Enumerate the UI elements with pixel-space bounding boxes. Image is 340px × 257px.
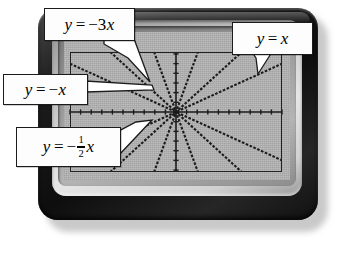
eq-lhs: y [24,81,33,98]
callout-x: y = x [232,22,313,55]
equation-minus-half-x: y = − 1 2 x [42,135,94,159]
eq-variable: x [86,138,95,155]
callout-minus-half-x: y = − 1 2 x [16,127,121,167]
eq-sign: − [67,138,77,155]
fraction-one-half: 1 2 [77,135,85,159]
eq-sign: − [88,16,98,33]
eq-sign: − [49,81,59,98]
eq-coefficient: 3 [98,16,107,33]
eq-variable: x [280,30,289,47]
eq-variable: x [106,16,115,33]
fraction-numerator: 1 [78,135,83,145]
callout-minus-3x: y = − 3 x [44,8,135,41]
eq-equals: = [73,16,89,33]
eq-equals: = [51,138,67,155]
equation-x: y = x [256,30,289,47]
equation-minus-3x: y = − 3 x [64,16,115,33]
equation-minus-x: y = − x [24,81,66,98]
callout-minus-x: y = − x [3,74,88,105]
eq-lhs: y [64,16,73,33]
eq-lhs: y [256,30,265,47]
screenshot-root: y = − 3 x y = x y = − x y = − 1 2 [0,0,340,257]
fraction-denominator: 2 [78,149,83,159]
eq-equals: = [265,30,281,47]
eq-lhs: y [42,138,51,155]
eq-equals: = [33,81,49,98]
eq-variable: x [58,81,67,98]
